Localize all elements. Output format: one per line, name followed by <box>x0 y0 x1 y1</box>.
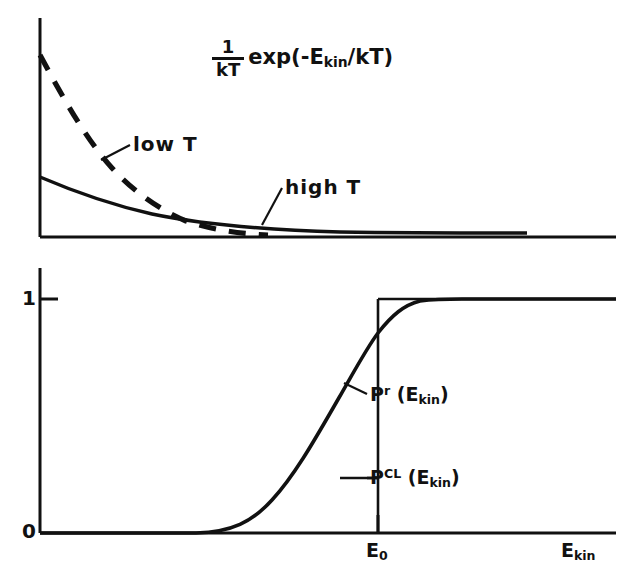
y-axis-label-zero: 0 <box>22 521 36 541</box>
formula-denominator: kT <box>212 60 244 79</box>
label-ekin-base: E <box>561 539 574 561</box>
formula-numerator: 1 <box>218 38 239 57</box>
leader-line-low-t <box>101 145 130 160</box>
x-axis-label-ekin: Ekin <box>561 541 596 562</box>
label-p-cl-base: P <box>370 466 384 488</box>
label-e0-subscript: 0 <box>379 548 388 563</box>
curve-high-temperature <box>40 177 527 233</box>
formula-expression-tail: /kT) <box>348 45 394 69</box>
curve-quantum-tunneling <box>40 299 616 533</box>
distribution-formula: 1 kT exp(-Ekin/kT) <box>212 38 393 79</box>
physics-figure: 1 kT exp(-Ekin/kT) low T high T Pr (Ekin… <box>0 0 631 585</box>
label-p-r-close: ) <box>440 383 449 405</box>
label-p-r-open: (E <box>390 383 418 405</box>
label-p-r-base: P <box>370 383 384 405</box>
label-p-cl-open: (E <box>401 466 429 488</box>
leader-line-p-r <box>344 383 367 394</box>
formula-expression: exp(-Ekin/kT) <box>248 47 393 70</box>
x-axis-tick-label-e0: E0 <box>366 541 388 562</box>
label-p-cl-superscript: CL <box>384 466 401 481</box>
y-axis-label-one: 1 <box>22 288 36 308</box>
label-p-r-subscript: kin <box>418 392 440 407</box>
figure-canvas <box>0 0 631 585</box>
label-p-cl-close: ) <box>451 466 460 488</box>
leader-line-high-t <box>262 188 282 225</box>
formula-fraction: 1 kT <box>212 38 244 79</box>
label-p-cl-subscript: kin <box>429 475 451 490</box>
formula-expression-subscript: kin <box>324 54 348 70</box>
label-ekin-subscript: kin <box>574 548 596 563</box>
label-high-temperature: high T <box>285 177 361 197</box>
label-classical-probability: PCL (Ekin) <box>370 468 460 489</box>
label-quantum-probability: Pr (Ekin) <box>370 385 449 406</box>
label-e0-base: E <box>366 539 379 561</box>
formula-expression-head: exp(-E <box>248 45 323 69</box>
label-low-temperature: low T <box>133 134 198 154</box>
